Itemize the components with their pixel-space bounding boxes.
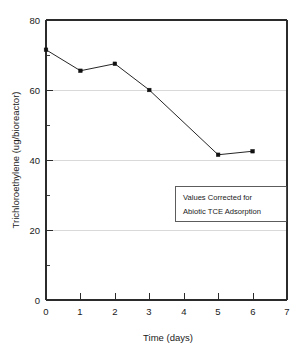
data-series-line bbox=[46, 50, 253, 155]
y-tick-label-80: 80 bbox=[29, 15, 40, 26]
x-axis-title: Time (days) bbox=[143, 332, 193, 343]
data-point-marker bbox=[79, 69, 83, 73]
annotation-line-2: Abiotic TCE Adsorption bbox=[183, 207, 261, 216]
chart-figure: 0 20 40 60 80 0 1 2 3 4 5 6 7 Time (days… bbox=[0, 0, 306, 358]
y-axis-title: Trichloroethylene (ug/bioreactor) bbox=[10, 92, 21, 229]
y-tick-label-20: 20 bbox=[29, 225, 40, 236]
x-tick-label-2: 2 bbox=[112, 306, 117, 317]
x-tick-label-7: 7 bbox=[284, 306, 289, 317]
y-tick-label-60: 60 bbox=[29, 85, 40, 96]
data-point-marker bbox=[44, 48, 48, 52]
data-point-markers bbox=[44, 48, 254, 157]
x-axis-ticks bbox=[46, 293, 287, 300]
y-tick-label-40: 40 bbox=[29, 155, 40, 166]
line-chart-canvas: 0 20 40 60 80 0 1 2 3 4 5 6 7 Time (days… bbox=[0, 0, 306, 358]
y-axis-tick-labels: 0 20 40 60 80 bbox=[29, 15, 40, 306]
x-tick-label-0: 0 bbox=[43, 306, 48, 317]
x-tick-label-4: 4 bbox=[181, 306, 186, 317]
y-tick-label-0: 0 bbox=[35, 295, 40, 306]
x-tick-label-5: 5 bbox=[215, 306, 220, 317]
data-point-marker bbox=[113, 62, 117, 66]
data-point-marker bbox=[216, 153, 220, 157]
x-tick-label-1: 1 bbox=[77, 306, 82, 317]
data-point-marker bbox=[251, 149, 255, 153]
y-axis-ticks bbox=[46, 20, 53, 300]
annotation-line-1: Values Corrected for bbox=[183, 193, 253, 202]
annotation-box: Values Corrected for Abiotic TCE Adsorpt… bbox=[175, 186, 286, 221]
x-axis-tick-labels: 0 1 2 3 4 5 6 7 bbox=[43, 306, 289, 317]
x-tick-label-3: 3 bbox=[146, 306, 151, 317]
data-point-marker bbox=[147, 88, 151, 92]
x-tick-label-6: 6 bbox=[250, 306, 255, 317]
